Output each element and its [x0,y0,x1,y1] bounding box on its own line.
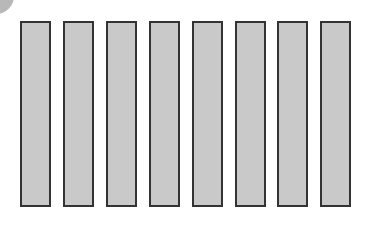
corner-circle-decoration [0,0,14,14]
bar-7 [277,21,308,207]
bar-3 [106,21,137,207]
bar-8 [320,21,351,207]
bar-4 [149,21,180,207]
bar-1 [20,21,51,207]
bar-2 [63,21,94,207]
bar-5 [192,21,223,207]
bar-6 [235,21,266,207]
